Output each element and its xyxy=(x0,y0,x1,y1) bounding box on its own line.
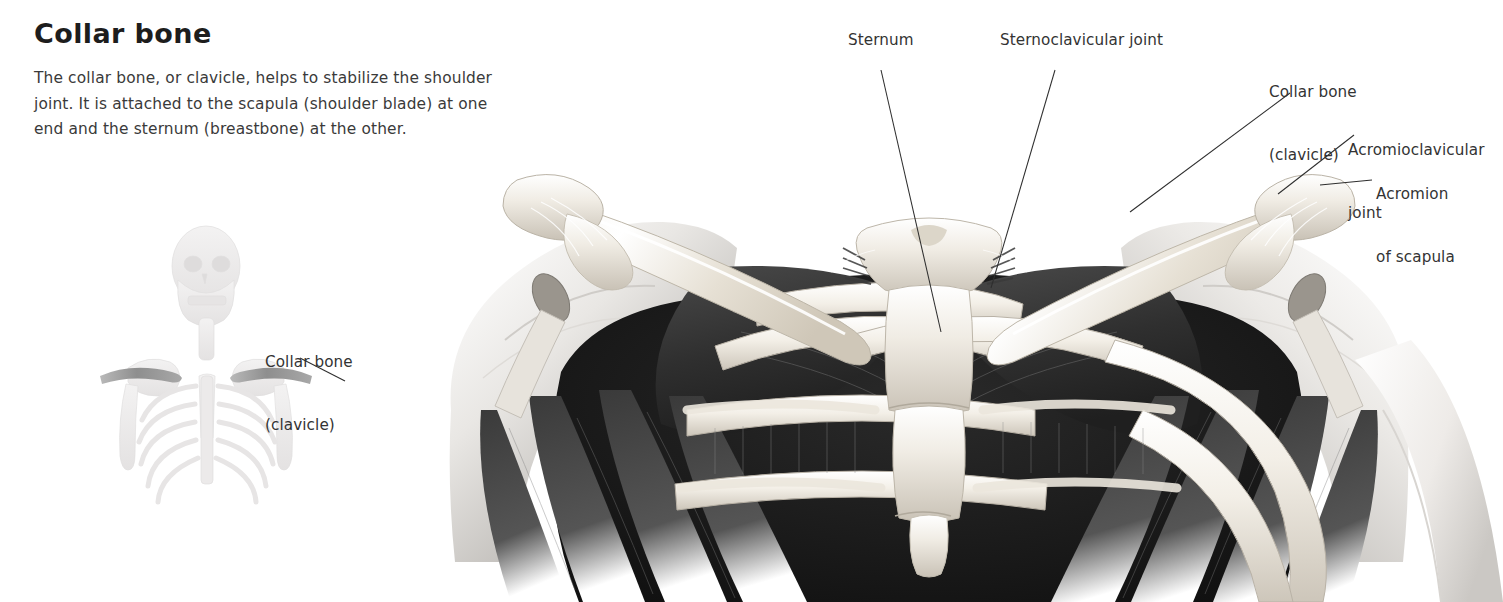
label-thumbnail-clavicle-line2: (clavicle) xyxy=(265,415,353,436)
page-root: Collar bone The collar bone, or clavicle… xyxy=(0,0,1503,602)
label-collar-bone-line2: (clavicle) xyxy=(1269,145,1357,166)
label-acromion-line1: Acromion xyxy=(1376,184,1455,205)
label-acromion-line2: of scapula xyxy=(1376,247,1455,268)
label-sternum: Sternum xyxy=(848,30,914,51)
label-thumbnail-clavicle-line1: Collar bone xyxy=(265,352,353,373)
label-collar-bone-line1: Collar bone xyxy=(1269,82,1357,103)
label-collar-bone: Collar bone (clavicle) xyxy=(1269,40,1357,208)
label-sternoclavicular-joint: Sternoclavicular joint xyxy=(1000,30,1163,51)
label-thumbnail-clavicle: Collar bone (clavicle) xyxy=(265,310,353,478)
label-acromion-of-scapula: Acromion of scapula xyxy=(1376,142,1455,310)
page-title: Collar bone xyxy=(34,18,212,49)
